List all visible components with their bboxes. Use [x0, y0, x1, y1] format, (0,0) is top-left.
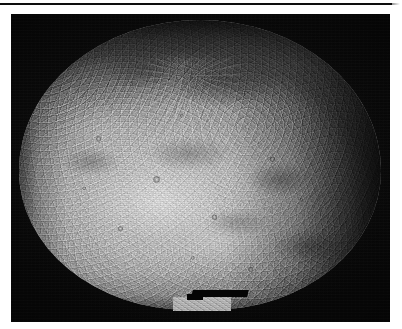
- top-horizontal-rule-fade: [390, 3, 400, 5]
- planet-disc-wrapper: [19, 20, 381, 310]
- scanned-page: · · · · · · · · ·: [0, 0, 402, 329]
- top-horizontal-rule: [0, 3, 392, 5]
- data-gap-bar-secondary: [187, 294, 203, 300]
- planet-disc: [19, 20, 381, 310]
- figure-planet-photomosaic: [11, 14, 390, 322]
- south-limb-shading: [19, 20, 381, 310]
